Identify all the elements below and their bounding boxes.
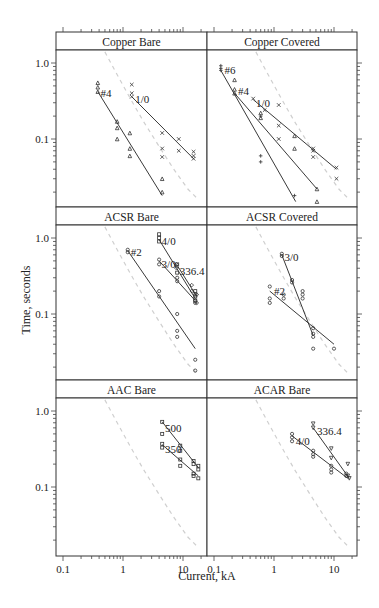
series-label: 336.4	[180, 265, 205, 277]
series-label: 4/0	[162, 235, 177, 247]
series-label: 350	[165, 443, 182, 455]
panel-chart: Copper Bare#41/0Copper Covered#6#41/0ACS…	[0, 0, 379, 608]
panel-title: Copper Covered	[244, 36, 320, 49]
panel-title: ACSR Bare	[104, 211, 159, 223]
x-tick-label: 1	[120, 563, 126, 575]
series-label: 4/0	[296, 435, 311, 447]
panel-acar-bare: ACAR Bare4/0336.4	[207, 380, 357, 556]
y-tick-label: 0.1	[35, 481, 49, 493]
panel-copper-covered: Copper Covered#6#41/0	[207, 32, 357, 207]
series-label: 3/0	[285, 251, 300, 263]
series-label: #4	[100, 87, 112, 99]
panel-title: AAC Bare	[107, 384, 156, 396]
series-label: #4	[238, 85, 250, 97]
panel-title: ACAR Bare	[254, 384, 311, 396]
panel-frame	[207, 398, 357, 556]
series-label: 336.4	[317, 425, 342, 437]
series-label: #2	[274, 285, 285, 297]
y-tick-label: 1.0	[35, 57, 49, 69]
x-tick-label: 1	[271, 563, 277, 575]
x-tick-label: 0.1	[56, 563, 70, 575]
series-label: 500	[165, 422, 182, 434]
series-label: #2	[131, 246, 142, 258]
chart-canvas: Copper Bare#41/0Copper Covered#6#41/0ACS…	[0, 0, 379, 608]
series-label: 3/0	[162, 258, 177, 270]
series-label: 1/0	[135, 93, 150, 105]
y-tick-label: 0.1	[35, 133, 49, 145]
y-tick-label: 0.1	[35, 308, 49, 320]
series-label: 1/0	[256, 97, 271, 109]
panel-title: ACSR Covered	[246, 211, 318, 223]
y-tick-label: 1.0	[35, 232, 49, 244]
series-label: #6	[225, 64, 237, 76]
x-axis-label: Current, kA	[178, 569, 236, 583]
y-tick-label: 1.0	[35, 405, 49, 417]
panel-frame	[207, 225, 357, 380]
y-axis-label: Time, seconds	[19, 265, 33, 334]
panel-aac-bare: AAC Bare500350	[56, 380, 207, 556]
x-tick-label: 10	[329, 563, 341, 575]
panel-acsr-bare: ACSR Bare#24/03/0336.4	[56, 207, 207, 380]
panel-acsr-covered: ACSR Covered3/0#2	[207, 207, 357, 380]
panel-title: Copper Bare	[102, 36, 160, 49]
panel-copper-bare: Copper Bare#41/0	[56, 32, 207, 207]
